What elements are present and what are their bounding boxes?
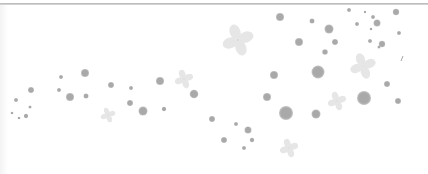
dot-icon: [397, 31, 401, 35]
flower-icon: [279, 138, 299, 158]
dot-icon: [57, 88, 61, 92]
dot-icon: [209, 116, 215, 122]
dot-icon: [370, 28, 373, 31]
dot-icon: [11, 112, 14, 115]
dot-icon: [250, 138, 254, 142]
dot-icon: [66, 93, 74, 101]
dot-icon: [234, 122, 238, 126]
dot-icon: [14, 98, 18, 102]
dot-icon: [279, 106, 293, 120]
dot-icon: [312, 110, 321, 119]
dot-icon: [325, 25, 334, 34]
dot-icon: [28, 87, 34, 93]
dot-icon: [127, 100, 133, 106]
dot-icon: [156, 77, 164, 85]
dot-icon: [108, 82, 114, 88]
dot-icon: [395, 98, 401, 104]
dot-icon: [368, 39, 372, 43]
dot-icon: [190, 90, 199, 99]
dot-icon: [81, 69, 89, 77]
dot-icon: [242, 146, 246, 150]
dot-icon: [18, 117, 21, 120]
dot-icon: [332, 39, 338, 45]
flower-icon: [100, 107, 116, 123]
dot-icon: [312, 66, 325, 79]
dot-icon: [162, 107, 166, 111]
dot-icon: [393, 9, 399, 15]
dots-and-flowers-pattern: [0, 0, 428, 174]
dot-icon: [24, 114, 28, 118]
dot-icon: [377, 45, 380, 48]
flower-icon: [221, 23, 255, 57]
dot-icon: [364, 11, 366, 13]
dot-icon: [357, 91, 371, 105]
dot-icon: [59, 75, 63, 79]
dot-icon: [384, 81, 390, 87]
dot-icon: [270, 71, 278, 79]
dot-icon: [28, 105, 31, 108]
dot-icon: [371, 15, 375, 19]
tick-mark: [401, 56, 403, 61]
flower-icon: [174, 69, 194, 89]
dot-icon: [276, 13, 284, 21]
dot-icon: [139, 107, 148, 116]
dot-icon: [347, 8, 351, 12]
dot-icon: [263, 93, 271, 101]
decorative-background: [0, 0, 428, 174]
dot-icon: [355, 22, 359, 26]
dot-icon: [84, 94, 89, 99]
dot-icon: [295, 38, 303, 46]
flower-icon: [349, 52, 377, 80]
dot-icon: [322, 49, 328, 55]
dot-icon: [221, 137, 227, 143]
dot-icon: [129, 86, 133, 90]
dot-icon: [310, 19, 315, 24]
dot-icon: [245, 127, 252, 134]
dot-icon: [374, 20, 381, 27]
flower-icon: [327, 91, 347, 111]
